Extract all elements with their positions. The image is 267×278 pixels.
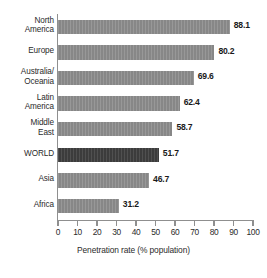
bar-row: Asia46.7 [0, 169, 267, 195]
cropped-title [0, 0, 267, 5]
bar-row: NorthAmerica88.1 [0, 16, 267, 42]
x-axis-title: Penetration rate (% population) [0, 245, 267, 255]
bar-row: MiddleEast58.7 [0, 118, 267, 144]
axis-tick [135, 221, 136, 226]
bar-row: LatinAmerica62.4 [0, 92, 267, 118]
bar [58, 199, 119, 214]
category-label: NorthAmerica [0, 16, 54, 35]
bar-row: Africa31.2 [0, 195, 267, 221]
category-label: LatinAmerica [0, 93, 54, 112]
category-label: Africa [0, 200, 54, 209]
bar [58, 45, 214, 60]
axis-tick [155, 221, 156, 226]
plot-area: NorthAmerica88.1Europe80.2Australia/Ocea… [0, 14, 267, 220]
bar-value-label: 69.6 [198, 71, 214, 81]
bar-row: Australia/Oceania69.6 [0, 67, 267, 93]
bar-row: Europe80.2 [0, 41, 267, 67]
axis-tick [96, 221, 97, 226]
bar-value-label: 31.2 [123, 199, 139, 209]
category-label: WORLD [0, 149, 54, 158]
axis-tick [213, 221, 214, 226]
axis-tick [252, 221, 253, 226]
bar-value-label: 88.1 [234, 20, 250, 30]
category-label: Europe [0, 46, 54, 55]
bar [58, 173, 149, 188]
bar [58, 96, 180, 111]
axis-tick [174, 221, 175, 226]
bar-row: WORLD51.7 [0, 144, 267, 170]
axis-tick-label: 100 [240, 227, 266, 237]
category-label: Australia/Oceania [0, 67, 54, 86]
bar-chart: NorthAmerica88.1Europe80.2Australia/Ocea… [0, 0, 267, 278]
bar [58, 122, 172, 137]
bar [58, 20, 230, 35]
axis-tick [77, 221, 78, 226]
bar-value-label: 62.4 [184, 97, 200, 107]
category-label: Asia [0, 174, 54, 183]
bar-value-label: 58.7 [176, 122, 192, 132]
bar-value-label: 46.7 [153, 174, 169, 184]
axis-tick [233, 221, 234, 226]
bar-value-label: 80.2 [218, 46, 234, 56]
category-label: MiddleEast [0, 118, 54, 137]
axis-tick [116, 221, 117, 226]
axis-tick [57, 221, 58, 226]
bar-value-label: 51.7 [163, 148, 179, 158]
bar [58, 71, 194, 86]
axis-tick [194, 221, 195, 226]
bar-highlight [58, 148, 159, 163]
